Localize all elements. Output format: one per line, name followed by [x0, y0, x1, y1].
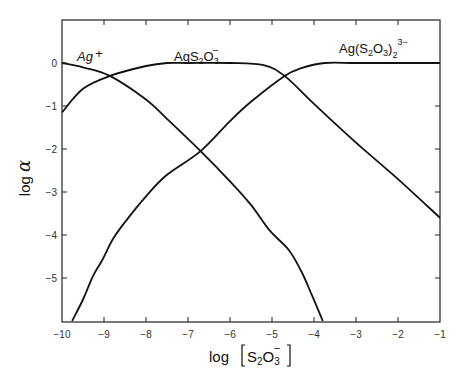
x-tick-label: −5 [266, 329, 278, 340]
x-axis-title: log S2O3− [209, 342, 290, 367]
y-tick-label: −2 [46, 144, 58, 155]
x-tick-label: −6 [224, 329, 236, 340]
curve-label-ags2o3: AgS2O3− [174, 45, 219, 66]
curve-label-ag-plus: Ag+ [76, 46, 103, 64]
plot-frame [62, 20, 440, 322]
x-tick-label: −10 [54, 329, 71, 340]
y-tick-label: −1 [46, 101, 58, 112]
x-axis-title-species: S2O3− [247, 342, 280, 367]
x-tick-label: −1 [434, 329, 446, 340]
x-tick-label: −7 [182, 329, 194, 340]
x-tick-label: −3 [350, 329, 362, 340]
figure-caption [100, 374, 360, 386]
left-bracket-icon [242, 345, 245, 366]
x-tick-label: −2 [392, 329, 404, 340]
y-tick-label: −5 [46, 273, 58, 284]
y-tick-label: 0 [51, 58, 57, 69]
x-axis-title-log: log [209, 348, 229, 365]
x-tick-label: −4 [308, 329, 320, 340]
y-tick-label: −4 [46, 230, 58, 241]
axis-ticks [62, 20, 440, 322]
y-tick-label: −3 [46, 187, 58, 198]
curve-ag-s2o3-2 [72, 63, 440, 321]
x-tick-label: −9 [98, 329, 110, 340]
curves [62, 63, 440, 321]
y-axis-title: log α [13, 160, 34, 196]
curve-ag-plus [62, 63, 323, 321]
right-bracket-icon [287, 345, 290, 366]
curve-ags2o3 [62, 63, 440, 218]
distribution-chart: −10−9−8−7−6−5−4−3−2−10−1−2−3−4−5 Ag+ AgS… [0, 0, 458, 389]
curve-label-ag-s2o3-2: Ag(S2O3)23− [339, 37, 408, 60]
x-tick-label: −8 [140, 329, 152, 340]
